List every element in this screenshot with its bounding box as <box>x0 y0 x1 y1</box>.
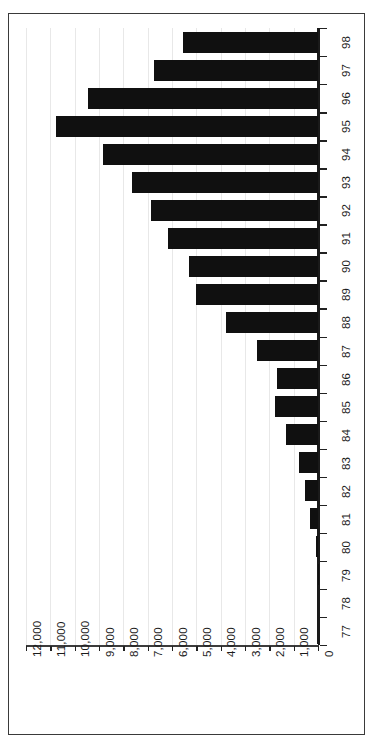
category-label-77: 77 <box>340 625 352 638</box>
category-tick <box>320 56 327 57</box>
category-tick <box>320 140 327 141</box>
category-tick <box>320 168 327 169</box>
value-axis-tick-label: 6,000 <box>177 627 189 657</box>
value-tick <box>172 646 173 651</box>
category-label-91: 91 <box>340 232 352 245</box>
category-label-92: 92 <box>340 204 352 217</box>
category-tick <box>320 280 327 281</box>
category-tick <box>320 224 327 225</box>
gridline <box>50 28 51 645</box>
value-axis-tick-label: 1,000 <box>298 627 310 657</box>
category-tick <box>320 561 327 562</box>
category-label-83: 83 <box>340 456 352 469</box>
bar-92 <box>151 200 318 221</box>
value-tick <box>245 646 246 651</box>
bar-88 <box>226 312 318 333</box>
bar-87 <box>257 340 318 361</box>
value-tick <box>99 646 100 651</box>
bar-83 <box>299 452 318 473</box>
value-axis-tick-label: 5,000 <box>201 627 213 657</box>
value-tick <box>221 646 222 651</box>
value-axis-tick-label: 2,000 <box>274 627 286 657</box>
value-tick <box>196 646 197 651</box>
category-label-80: 80 <box>340 541 352 554</box>
bar-91 <box>168 228 318 249</box>
value-axis-tick-label: 11,000 <box>55 621 67 657</box>
bar-80 <box>316 536 318 557</box>
category-tick <box>320 505 327 506</box>
category-label-89: 89 <box>340 288 352 301</box>
bar-89 <box>196 284 318 305</box>
value-tick <box>75 646 76 651</box>
category-label-95: 95 <box>340 120 352 133</box>
category-label-98: 98 <box>340 36 352 49</box>
bar-96 <box>88 88 318 109</box>
category-tick <box>320 28 327 29</box>
category-tick <box>320 393 327 394</box>
value-axis-tick-label: 9,000 <box>104 627 116 657</box>
category-label-87: 87 <box>340 344 352 357</box>
category-tick <box>320 196 327 197</box>
category-tick <box>320 589 327 590</box>
bar-98 <box>183 32 318 53</box>
category-label-82: 82 <box>340 485 352 498</box>
value-axis-tick-label: 3,000 <box>250 627 262 657</box>
gridline <box>26 28 27 645</box>
category-label-79: 79 <box>340 569 352 582</box>
category-tick <box>320 112 327 113</box>
category-label-93: 93 <box>340 176 352 189</box>
category-tick <box>320 533 327 534</box>
value-tick <box>148 646 149 651</box>
category-tick <box>320 337 327 338</box>
bar-82 <box>305 480 318 501</box>
bar-95 <box>56 116 318 137</box>
value-tick <box>269 646 270 651</box>
bar-84 <box>286 424 318 445</box>
bar-90 <box>189 256 318 277</box>
category-label-88: 88 <box>340 316 352 329</box>
bar-93 <box>132 172 318 193</box>
category-tick <box>320 84 327 85</box>
value-tick <box>26 646 27 651</box>
value-tick <box>50 646 51 651</box>
category-tick <box>320 449 327 450</box>
value-axis-tick-label: 7,000 <box>152 627 164 657</box>
category-label-85: 85 <box>340 400 352 413</box>
category-label-78: 78 <box>340 597 352 610</box>
value-axis-tick-label: 0 <box>323 650 335 657</box>
category-label-94: 94 <box>340 148 352 161</box>
value-axis-tick-label: 4,000 <box>225 627 237 657</box>
bar-94 <box>103 144 318 165</box>
value-axis-tick-label: 8,000 <box>128 627 140 657</box>
value-tick <box>318 646 319 651</box>
category-label-86: 86 <box>340 372 352 385</box>
category-tick <box>320 308 327 309</box>
category-tick <box>320 645 327 646</box>
category-tick <box>320 365 327 366</box>
category-tick <box>320 421 327 422</box>
category-label-84: 84 <box>340 428 352 441</box>
value-axis-tick-label: 10,000 <box>79 621 91 657</box>
chart-figure: 12,00011,00010,0009,0008,0007,0006,0005,… <box>0 0 375 753</box>
category-label-90: 90 <box>340 260 352 273</box>
bar-86 <box>277 368 318 389</box>
category-label-97: 97 <box>340 64 352 77</box>
value-tick <box>294 646 295 651</box>
bar-97 <box>154 60 318 81</box>
category-tick <box>320 617 327 618</box>
value-axis-tick-label: 12,000 <box>31 621 43 657</box>
bar-85 <box>275 396 318 417</box>
category-label-96: 96 <box>340 92 352 105</box>
category-label-81: 81 <box>340 513 352 526</box>
category-tick <box>320 252 327 253</box>
value-tick <box>123 646 124 651</box>
bar-81 <box>310 508 318 529</box>
category-tick <box>320 477 327 478</box>
